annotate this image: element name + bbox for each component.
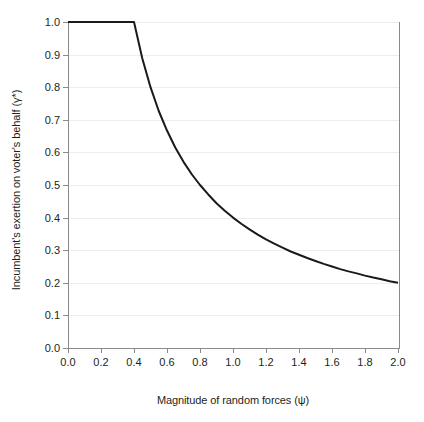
x-tick-mark <box>200 348 201 353</box>
y-tick-label: 0.8 <box>20 82 60 93</box>
y-tick-mark <box>63 315 68 316</box>
x-tick-mark <box>266 348 267 353</box>
x-axis-label: Magnitude of random forces (ψ) <box>68 394 398 406</box>
y-tick-mark <box>63 55 68 56</box>
y-tick-mark <box>63 283 68 284</box>
chart-figure: Incumbent's exertion on voter's behalf (… <box>0 0 424 422</box>
y-tick-label: 0.7 <box>20 114 60 125</box>
y-tick-label: 0.1 <box>20 310 60 321</box>
x-tick-mark <box>233 348 234 353</box>
y-tick-label: 0.0 <box>20 343 60 354</box>
y-tick-label: 0.3 <box>20 245 60 256</box>
y-tick-mark <box>63 152 68 153</box>
y-tick-mark <box>63 87 68 88</box>
y-tick-label: 0.6 <box>20 147 60 158</box>
y-tick-mark <box>63 348 68 349</box>
x-tick-mark <box>134 348 135 353</box>
y-tick-mark <box>63 120 68 121</box>
x-tick-label: 2.0 <box>378 357 418 368</box>
series-line-optimal-exertion <box>68 22 398 283</box>
y-tick-label: 0.4 <box>20 212 60 223</box>
x-tick-mark <box>398 348 399 353</box>
y-tick-label: 0.5 <box>20 180 60 191</box>
y-tick-label: 0.9 <box>20 49 60 60</box>
x-tick-mark <box>332 348 333 353</box>
y-tick-label: 1.0 <box>20 17 60 28</box>
x-tick-mark <box>167 348 168 353</box>
y-tick-mark <box>63 250 68 251</box>
x-tick-mark <box>365 348 366 353</box>
y-tick-mark <box>63 22 68 23</box>
x-tick-mark <box>101 348 102 353</box>
x-tick-mark <box>299 348 300 353</box>
data-curve <box>68 22 398 348</box>
x-tick-mark <box>68 348 69 353</box>
y-tick-label: 0.2 <box>20 277 60 288</box>
y-tick-mark <box>63 185 68 186</box>
y-tick-mark <box>63 218 68 219</box>
